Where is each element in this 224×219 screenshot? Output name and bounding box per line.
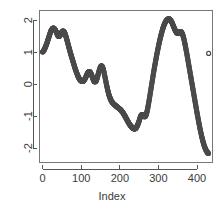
chart-canvas: -2-1012 0100200300400 Index	[0, 0, 224, 219]
x-axis: 0100200300400	[40, 165, 207, 184]
y-tick-label: -1	[23, 111, 35, 121]
x-tick-label: 100	[72, 172, 90, 184]
data-point	[207, 51, 211, 55]
x-axis-title: Index	[99, 190, 126, 202]
y-tick-label: 1	[23, 49, 35, 55]
data-series	[41, 17, 211, 156]
plot-root: -2-1012 0100200300400 Index	[0, 0, 224, 219]
x-tick-label: 300	[149, 172, 167, 184]
y-tick-label: 0	[23, 81, 35, 87]
y-axis: -2-1012	[23, 17, 38, 153]
x-tick-label: 400	[188, 172, 206, 184]
y-tick-label: -2	[23, 143, 35, 153]
x-tick-label: 200	[111, 172, 129, 184]
y-tick-label: 2	[23, 17, 35, 23]
x-tick-label: 0	[40, 172, 46, 184]
